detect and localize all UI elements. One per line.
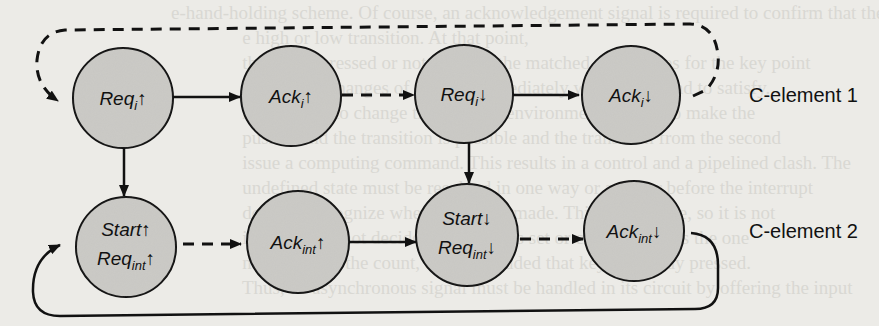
- svg-text:Start↓: Start↓: [442, 208, 492, 229]
- svg-text:Start↑: Start↑: [101, 219, 151, 240]
- c-element-state-diagram: Reqi↑ Acki↑ Reqi↓ Acki↓ Start↑ Reqint↑: [0, 0, 879, 326]
- node-ack-i-down: Acki↓: [582, 46, 680, 144]
- node-ack-i-up: Acki↑: [241, 46, 341, 146]
- label-c-element-2: C-element 2: [749, 220, 858, 242]
- node-ack-int-up: Ackint↑: [247, 191, 349, 293]
- node-ack-int-down: Ackint↓: [584, 181, 684, 281]
- node-req-i-down: Reqi↓: [415, 45, 513, 143]
- label-c-element-1: C-element 1: [749, 84, 858, 106]
- node-req-i-up: Reqi↑: [73, 48, 173, 148]
- node-start-up-req-int-up: Start↑ Reqint↑: [76, 197, 176, 297]
- node-start-down-req-int-down: Start↓ Reqint↓: [416, 184, 518, 286]
